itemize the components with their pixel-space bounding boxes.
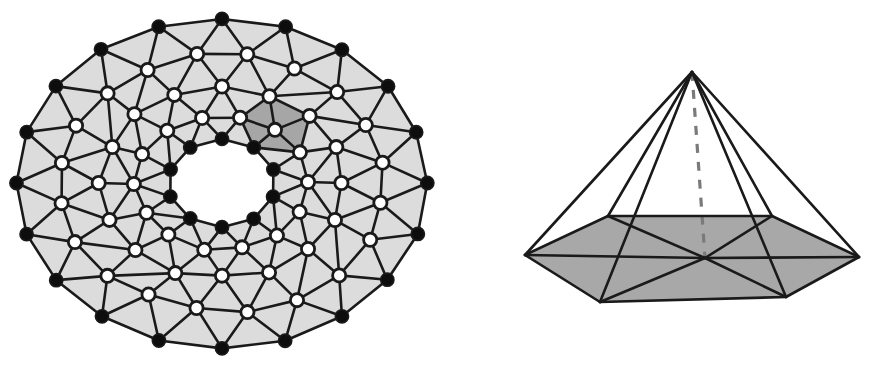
mesh-face: [339, 275, 387, 316]
boundary-vertex: [20, 228, 33, 241]
vertex-solid-dot: [184, 141, 197, 154]
boundary-vertex: [279, 20, 292, 33]
vertex-solid-dot: [411, 227, 424, 240]
vertex-hollow-dot: [106, 140, 119, 153]
interior-vertex: [215, 80, 228, 93]
interior-vertex: [234, 111, 247, 124]
interior-vertex: [103, 213, 116, 226]
vertex-hollow-dot: [268, 123, 281, 136]
vertex-solid-dot: [95, 310, 108, 323]
vertex-solid-dot: [50, 274, 63, 287]
vertex-solid-dot: [279, 20, 292, 33]
boundary-vertex: [20, 126, 33, 139]
boundary-vertex: [184, 141, 197, 154]
boundary-vertex: [152, 20, 165, 33]
lateral-edge: [692, 72, 772, 216]
vertex-hollow-dot: [68, 236, 81, 249]
interior-vertex: [135, 147, 148, 160]
interior-vertex: [55, 156, 68, 169]
interior-vertex: [268, 123, 281, 136]
vertex-hollow-dot: [215, 80, 228, 93]
cone-diagram: [460, 0, 885, 367]
interior-vertex: [106, 140, 119, 153]
boundary-vertex: [152, 334, 165, 347]
vertex-hollow-dot: [270, 229, 283, 242]
vertex-hollow-dot: [129, 243, 142, 256]
boundary-vertex: [94, 43, 107, 56]
vertex-hollow-dot: [141, 63, 154, 76]
interior-vertex: [290, 294, 303, 307]
interior-vertex: [161, 124, 174, 137]
vertex-hollow-dot: [103, 213, 116, 226]
vertex-hollow-dot: [262, 266, 275, 279]
boundary-vertex: [381, 273, 394, 286]
vertex-hollow-dot: [293, 146, 306, 159]
vertex-solid-dot: [421, 176, 434, 189]
annulus-panel: [0, 0, 460, 367]
boundary-vertex: [184, 212, 197, 225]
interior-vertex: [301, 242, 314, 255]
vertex-solid-dot: [20, 126, 33, 139]
vertex-hollow-dot: [169, 267, 182, 280]
vertex-solid-dot: [381, 80, 394, 93]
interior-vertex: [235, 241, 248, 254]
vertex-hollow-dot: [290, 294, 303, 307]
interior-vertex: [92, 176, 105, 189]
interior-vertex: [196, 111, 209, 124]
interior-vertex: [335, 176, 348, 189]
vertex-hollow-dot: [235, 241, 248, 254]
vertex-hollow-dot: [142, 288, 155, 301]
boundary-vertex: [421, 176, 434, 189]
interior-vertex: [142, 288, 155, 301]
boundary-vertex: [215, 12, 228, 25]
vertex-hollow-dot: [198, 243, 211, 256]
vertex-solid-dot: [10, 176, 23, 189]
vertex-solid-dot: [164, 163, 177, 176]
vertex-hollow-dot: [191, 47, 204, 60]
vertex-hollow-dot: [293, 205, 306, 218]
vertex-solid-dot: [267, 163, 280, 176]
vertex-hollow-dot: [55, 156, 68, 169]
interior-vertex: [333, 269, 346, 282]
vertex-hollow-dot: [168, 88, 181, 101]
vertex-hollow-dot: [335, 176, 348, 189]
vertex-solid-dot: [94, 43, 107, 56]
vertex-hollow-dot: [288, 62, 301, 75]
interior-vertex: [293, 146, 306, 159]
vertex-hollow-dot: [101, 269, 114, 282]
vertex-hollow-dot: [241, 306, 254, 319]
vertex-solid-dot: [279, 334, 292, 347]
vertex-solid-dot: [215, 132, 228, 145]
interior-vertex: [141, 63, 154, 76]
boundary-vertex: [49, 80, 62, 93]
vertex-hollow-dot: [303, 109, 316, 122]
vertex-hollow-dot: [374, 196, 387, 209]
vertex-hollow-dot: [234, 111, 247, 124]
vertex-hollow-dot: [263, 90, 276, 103]
boundary-vertex: [267, 163, 280, 176]
base-spoke: [705, 257, 859, 258]
interior-vertex: [101, 269, 114, 282]
boundary-vertex: [215, 221, 228, 234]
vertex-solid-dot: [184, 212, 197, 225]
interior-vertex: [364, 233, 377, 246]
interior-vertex: [169, 267, 182, 280]
boundary-vertex: [164, 190, 177, 203]
interior-vertex: [55, 197, 68, 210]
boundary-vertex: [95, 310, 108, 323]
vertex-hollow-dot: [92, 176, 105, 189]
vertex-hollow-dot: [161, 124, 174, 137]
vertex-hollow-dot: [135, 147, 148, 160]
interior-vertex: [68, 236, 81, 249]
boundary-vertex: [279, 334, 292, 347]
boundary-vertex: [247, 141, 260, 154]
vertex-hollow-dot: [101, 87, 114, 100]
interior-vertex: [262, 266, 275, 279]
interior-vertex: [241, 306, 254, 319]
interior-vertex: [263, 90, 276, 103]
vertex-hollow-dot: [359, 118, 372, 131]
interior-vertex: [140, 206, 153, 219]
vertex-hollow-dot: [215, 269, 228, 282]
vertex-hollow-dot: [364, 233, 377, 246]
vertex-solid-dot: [335, 310, 348, 323]
